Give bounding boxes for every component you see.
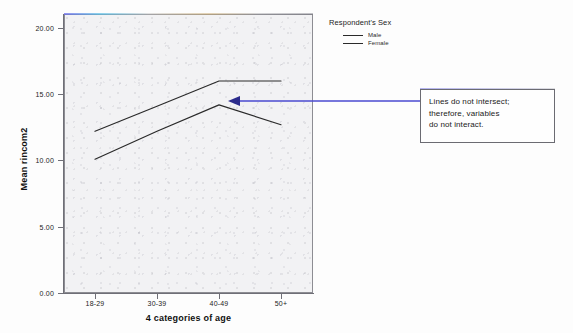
legend-item-male[interactable]: Male (343, 32, 439, 38)
x-tick-label-30-39: 30-39 (148, 300, 167, 307)
annotation-line-3: do not interact. (429, 119, 546, 131)
x-tick-label-18-29: 18-29 (86, 300, 105, 307)
x-tick-mark-50plus (281, 294, 282, 299)
x-tick-mark-18-29 (95, 294, 96, 299)
legend-title: Respondent's Sex (329, 18, 439, 27)
x-axis-line (63, 293, 314, 294)
annotation-callout: Lines do not intersect; therefore, varia… (420, 89, 555, 143)
y-tick-mark-15 (58, 94, 64, 95)
x-tick-label-50plus: 50+ (275, 300, 287, 307)
legend: Respondent's Sex Male Female (329, 18, 439, 48)
legend-line-male-icon (343, 35, 363, 36)
y-tick-label-10: 10.00 (35, 157, 54, 164)
legend-item-female[interactable]: Female (343, 40, 439, 46)
y-tick-label-20: 20.00 (35, 25, 54, 32)
x-tick-label-40-49: 40-49 (210, 300, 229, 307)
y-tick-mark-20 (58, 28, 64, 29)
legend-label-male: Male (368, 32, 381, 38)
y-tick-mark-10 (58, 160, 64, 161)
y-tick-label-15: 15.00 (35, 91, 54, 98)
y-tick-label-0: 0.00 (40, 290, 54, 297)
legend-line-female-icon (343, 43, 363, 44)
chart-canvas: 20.00 15.00 10.00 5.00 0.00 18-29 30-39 … (0, 0, 573, 333)
x-tick-mark-40-49 (219, 294, 220, 299)
scan-texture (65, 15, 312, 292)
plot-area (64, 14, 313, 293)
y-tick-mark-5 (58, 227, 64, 228)
annotation-line-2: therefore, variables (429, 108, 546, 120)
x-tick-mark-30-39 (157, 294, 158, 299)
x-axis-title: 4 categories of age (64, 313, 313, 323)
y-axis-line (63, 14, 64, 294)
y-tick-mark-0 (58, 293, 64, 294)
legend-label-female: Female (368, 40, 389, 46)
y-axis-title: Mean rincom2 (19, 99, 29, 219)
y-tick-label-5: 5.00 (40, 224, 54, 231)
annotation-line-1: Lines do not intersect; (429, 96, 546, 108)
